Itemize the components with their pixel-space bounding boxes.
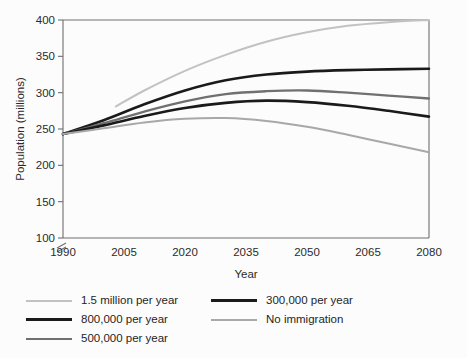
legend-item[interactable]: No immigration xyxy=(211,310,353,329)
data-series-group xyxy=(63,20,429,152)
x-tick-label: 2080 xyxy=(416,246,442,258)
legend-swatch-line xyxy=(26,300,72,302)
x-tick-label: 2065 xyxy=(355,246,381,258)
chart-legend: 1.5 million per year 800,000 per year 50… xyxy=(26,291,446,351)
series-line xyxy=(63,90,429,134)
legend-item[interactable]: 1.5 million per year xyxy=(26,291,178,310)
x-tick-label: 2035 xyxy=(233,246,259,258)
axis-frame xyxy=(63,20,429,238)
x-axis-title: Year xyxy=(234,268,257,280)
population-projection-line-chart: 100150200250300350400 199020052020203520… xyxy=(0,0,467,290)
legend-item[interactable]: 300,000 per year xyxy=(211,291,353,310)
figure: 100150200250300350400 199020052020203520… xyxy=(0,0,467,358)
y-tick-label: 100 xyxy=(36,232,55,244)
chart-plot-area: 100150200250300350400 199020052020203520… xyxy=(0,0,467,290)
y-tick-label: 350 xyxy=(36,50,55,62)
y-tick-label: 250 xyxy=(36,123,55,135)
legend-item[interactable]: 800,000 per year xyxy=(26,310,178,329)
y-tick-label: 150 xyxy=(36,196,55,208)
legend-item-label: 1.5 million per year xyxy=(81,291,178,310)
legend-swatch-line xyxy=(26,318,72,321)
y-tick-label: 400 xyxy=(36,14,55,26)
legend-swatch-line xyxy=(26,338,72,340)
x-tick-label: 2050 xyxy=(294,246,320,258)
y-tick-label: 200 xyxy=(36,159,55,171)
series-line xyxy=(116,20,429,106)
y-tick-label: 300 xyxy=(36,87,55,99)
legend-item[interactable]: 500,000 per year xyxy=(26,329,178,348)
x-tick-label: 2020 xyxy=(172,246,198,258)
y-axis-ticks: 100150200250300350400 xyxy=(36,14,63,244)
legend-column-right: 300,000 per year No immigration xyxy=(211,291,353,329)
legend-swatch-line xyxy=(211,319,257,321)
legend-item-label: No immigration xyxy=(266,310,343,329)
legend-swatch-line xyxy=(211,299,257,302)
x-axis-ticks: 1990200520202035205020652080 xyxy=(50,246,442,258)
legend-item-label: 500,000 per year xyxy=(81,329,168,348)
legend-item-label: 300,000 per year xyxy=(266,291,353,310)
x-tick-label: 1990 xyxy=(50,246,76,258)
y-axis-title: Population (millions) xyxy=(14,77,26,181)
x-tick-label: 2005 xyxy=(111,246,137,258)
legend-column-left: 1.5 million per year 800,000 per year 50… xyxy=(26,291,178,348)
legend-item-label: 800,000 per year xyxy=(81,310,168,329)
